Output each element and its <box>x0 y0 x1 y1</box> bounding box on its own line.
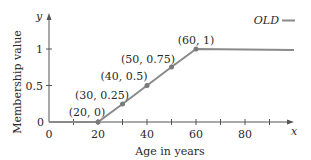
y-axis-arrow-icon <box>47 13 52 20</box>
point-label: (30, 0.25) <box>75 89 129 102</box>
y-tick-labels: 0 0.5 1 <box>26 43 45 129</box>
x-tick-label: 0 <box>46 128 53 141</box>
x-axis-title: Age in years <box>134 145 205 158</box>
x-axis-symbol: x <box>291 125 298 138</box>
x-tick-label: 20 <box>91 128 105 141</box>
point-label: (20, 0) <box>69 106 106 119</box>
x-tick-label: 60 <box>189 128 203 141</box>
x-tick-label: 40 <box>140 128 154 141</box>
y-tick-label: 0 <box>37 116 44 129</box>
data-point <box>145 83 150 88</box>
point-labels: (20, 0) (30, 0.25) (40, 0.5) (50, 0.75) … <box>69 34 215 119</box>
point-label: (40, 0.5) <box>100 70 147 83</box>
legend-label: OLD <box>254 14 279 27</box>
y-tick-label: 1 <box>36 43 43 56</box>
legend: OLD <box>254 14 295 27</box>
y-tick-label: 0.5 <box>26 80 44 93</box>
data-point <box>120 102 125 107</box>
data-point <box>96 120 101 125</box>
x-tick-labels: 0 20 40 60 80 <box>46 128 253 141</box>
point-label: (50, 0.75) <box>121 53 175 66</box>
point-label: (60, 1) <box>178 34 215 47</box>
y-axis-symbol: y <box>35 10 43 23</box>
x-axis-arrow-icon <box>287 120 294 125</box>
y-axis-title: Membership value <box>11 30 24 134</box>
x-tick-label: 80 <box>238 128 252 141</box>
data-point <box>194 47 199 52</box>
membership-chart: 0 20 40 60 80 0 0.5 1 y x Age in years M… <box>0 0 311 160</box>
